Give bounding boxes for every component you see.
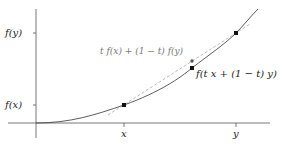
label-fy: f(y) [5, 28, 22, 38]
chord-label: t f(x) + (1 − t) f(y) [100, 47, 183, 56]
point-chord [190, 59, 193, 62]
label-x: x [121, 129, 127, 139]
point-y-fy [234, 31, 238, 35]
label-fx: f(x) [5, 100, 22, 110]
convexity-diagram: f(y) f(x) x y t f(x) + (1 − t) f(y) f(t … [0, 0, 282, 146]
point-x-fx [122, 103, 126, 107]
label-y: y [233, 129, 239, 139]
convex-curve [36, 9, 258, 123]
point-curve [190, 66, 194, 70]
curve-label: f(t x + (1 − t) y) [196, 69, 277, 79]
